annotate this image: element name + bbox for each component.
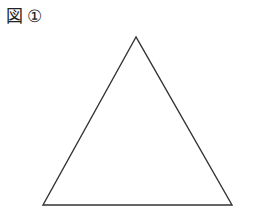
- triangle-shape: [43, 37, 232, 205]
- triangle-diagram: [0, 0, 259, 215]
